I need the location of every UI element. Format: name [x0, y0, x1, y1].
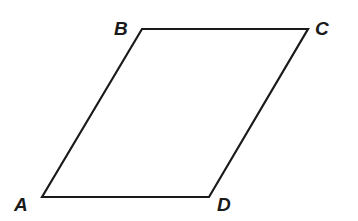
vertex-label-c: C: [315, 18, 329, 39]
parallelogram-abcd: [42, 29, 308, 197]
vertex-label-b: B: [114, 18, 128, 39]
vertex-label-d: D: [217, 194, 231, 215]
parallelogram-diagram: A B C D: [0, 0, 358, 221]
vertex-label-a: A: [13, 194, 28, 215]
